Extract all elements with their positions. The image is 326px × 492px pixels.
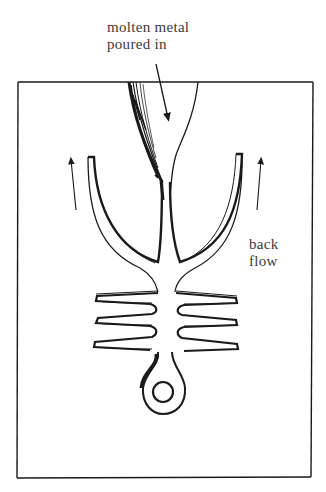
backflow-arrow-right-icon [257,160,261,210]
mold-frame [17,82,313,478]
sprue-cavity [88,154,242,292]
fin-cavities [94,291,238,351]
casting-mold-diagram [0,0,326,492]
backflow-arrow-left-icon [71,160,76,210]
ring-cavity [141,352,185,414]
pour-arrow-icon [156,64,168,118]
